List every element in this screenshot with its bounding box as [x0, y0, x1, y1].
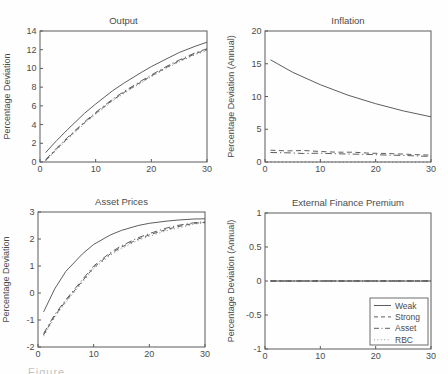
x-tick-label: 10 [89, 349, 99, 359]
series-line-strong [44, 222, 205, 335]
series-line-asset [44, 222, 205, 334]
y-tick-label: 20 [251, 26, 261, 36]
panel-title: Output [109, 15, 138, 26]
y-tick-label: 2 [29, 234, 34, 244]
y-tick-label: 0 [256, 276, 261, 286]
x-tick-label: 20 [371, 164, 381, 174]
y-tick-label: 1 [256, 208, 261, 218]
panel-asset-prices: 0102030-2-10123Asset PricesPercentage De… [1, 196, 210, 359]
legend-label-strong: Strong [395, 312, 420, 322]
y-tick-label: 1 [29, 261, 34, 271]
y-tick-label: 3 [29, 207, 34, 217]
x-tick-label: 30 [202, 164, 212, 174]
panel-title: Asset Prices [95, 196, 148, 207]
y-tick-label: 4 [31, 120, 36, 130]
y-tick-label: 12 [26, 45, 36, 55]
y-tick-label: -0.5 [246, 310, 262, 320]
x-tick-label: 0 [35, 349, 40, 359]
x-tick-label: 30 [426, 164, 436, 174]
legend-label-weak: Weak [395, 301, 417, 311]
x-tick-label: 20 [371, 351, 381, 361]
x-tick-label: 0 [37, 164, 42, 174]
panel-inflation: 010203005101520InflationPercentage Devia… [226, 15, 436, 174]
legend-label-rbc: RBC [395, 335, 413, 345]
series-line-rbc [46, 51, 207, 161]
legend-label-asset: Asset [395, 323, 417, 333]
panel-title: External Finance Premium [292, 197, 404, 208]
y-tick-label: -2 [26, 342, 34, 352]
figure-caption-fragment: Figure [28, 367, 228, 374]
legend: WeakStrongAssetRBC [370, 298, 428, 345]
y-tick-label: -1 [253, 344, 261, 354]
y-axis-label: Percentage Deviation [2, 53, 12, 139]
series-line-strong [46, 50, 207, 161]
figure-page: 010203002468101214OutputPercentage Devia… [0, 0, 448, 374]
y-tick-label: 0.5 [249, 242, 262, 252]
y-tick-label: 5 [256, 124, 261, 134]
x-tick-label: 10 [315, 164, 325, 174]
x-tick-label: 10 [91, 164, 101, 174]
y-axis-label: Percentage Deviation (Annual) [226, 220, 236, 343]
y-tick-label: 8 [31, 82, 36, 92]
panel-output: 010203002468101214OutputPercentage Devia… [2, 15, 212, 174]
x-tick-label: 20 [144, 349, 154, 359]
y-axis-label: Percentage Deviation [1, 236, 11, 322]
x-tick-label: 10 [315, 351, 325, 361]
series-line-asset [46, 49, 207, 160]
x-tick-label: 30 [200, 349, 210, 359]
y-tick-label: 6 [31, 101, 36, 111]
series-line-rbc [44, 223, 205, 336]
y-tick-label: 2 [31, 138, 36, 148]
y-tick-label: 0 [31, 157, 36, 167]
x-tick-label: 20 [146, 164, 156, 174]
y-tick-label: 0 [29, 288, 34, 298]
panel-title: Inflation [331, 15, 364, 26]
y-tick-label: 10 [26, 63, 36, 73]
y-tick-label: 10 [251, 92, 261, 102]
series-line-weak [271, 60, 432, 117]
y-tick-label: 14 [26, 26, 36, 36]
y-tick-label: 15 [251, 59, 261, 69]
x-tick-label: 30 [426, 351, 436, 361]
plot-box [38, 212, 205, 347]
plot-box [265, 31, 431, 162]
four-panel-impulse-response-figure: 010203002468101214OutputPercentage Devia… [0, 0, 448, 374]
x-tick-label: 0 [262, 164, 267, 174]
y-tick-label: 0 [256, 157, 261, 167]
x-tick-label: 0 [262, 351, 267, 361]
y-axis-label: Percentage Deviation (Annual) [226, 35, 236, 158]
y-tick-label: -1 [26, 315, 34, 325]
